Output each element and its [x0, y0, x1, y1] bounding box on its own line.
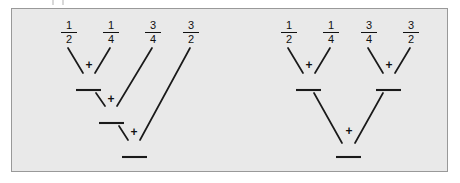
plus-sign-right-3: +	[344, 125, 354, 137]
fraction-numerator: 3	[140, 20, 166, 32]
figure-root: 1 2 1 4 3 4 3 2 + + + 1 2 1 4 3 4 3 2	[0, 0, 460, 183]
fraction-denominator: 2	[276, 33, 302, 45]
plus-sign-left-2: +	[106, 93, 116, 105]
leaf-label-right-3-over-2: 3 2	[398, 20, 424, 45]
fraction-denominator: 2	[398, 33, 424, 45]
fraction-numerator: 3	[356, 20, 382, 32]
fraction-denominator: 4	[98, 33, 124, 45]
leaf-label-right-3-over-4: 3 4	[356, 20, 382, 45]
fraction-numerator: 1	[98, 20, 124, 32]
leaf-label-left-1-over-4: 1 4	[98, 20, 124, 45]
fraction-numerator: 1	[56, 20, 82, 32]
plus-sign-left-3: +	[129, 126, 139, 138]
fraction-numerator: 3	[178, 20, 204, 32]
plus-sign-right-2: +	[384, 59, 394, 71]
leaf-label-left-1-over-2: 1 2	[56, 20, 82, 45]
leaf-label-left-3-over-4: 3 4	[140, 20, 166, 45]
leaf-label-left-3-over-2: 3 2	[178, 20, 204, 45]
fraction-denominator: 4	[140, 33, 166, 45]
fraction-numerator: 1	[318, 20, 344, 32]
fraction-denominator: 2	[56, 33, 82, 45]
plus-sign-right-1: +	[304, 59, 314, 71]
fraction-numerator: 1	[276, 20, 302, 32]
leaf-label-right-1-over-4: 1 4	[318, 20, 344, 45]
fraction-denominator: 2	[178, 33, 204, 45]
fraction-denominator: 4	[318, 33, 344, 45]
fraction-numerator: 3	[398, 20, 424, 32]
crop-artifact-mark	[52, 0, 54, 5]
plus-sign-left-1: +	[84, 59, 94, 71]
crop-artifact-mark	[62, 0, 64, 5]
fraction-denominator: 4	[356, 33, 382, 45]
leaf-label-right-1-over-2: 1 2	[276, 20, 302, 45]
